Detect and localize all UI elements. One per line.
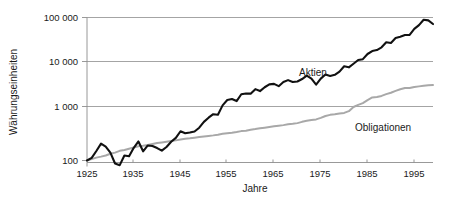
y-tick-label-100000: 100 000 bbox=[44, 12, 78, 23]
y-axis-title: Währungseinheiten bbox=[8, 49, 19, 135]
series-label-obligationen: Obligationen bbox=[355, 122, 411, 133]
x-tick-label-1945: 1945 bbox=[169, 168, 190, 179]
series-label-aktien: Aktien bbox=[299, 67, 327, 78]
chart-container: Währungseinheiten 100 000 10 000 1 000 1… bbox=[0, 0, 452, 197]
x-tick-label-1975: 1975 bbox=[309, 168, 330, 179]
y-tick-label-10000: 10 000 bbox=[49, 56, 78, 67]
x-tick-label-1985: 1985 bbox=[356, 168, 377, 179]
x-tick-label-1955: 1955 bbox=[215, 168, 236, 179]
x-axis-title: Jahre bbox=[242, 183, 267, 194]
x-tick-label-1935: 1935 bbox=[122, 168, 143, 179]
x-tick-label-1925: 1925 bbox=[76, 168, 97, 179]
line-chart: Währungseinheiten 100 000 10 000 1 000 1… bbox=[0, 0, 452, 197]
y-tick-label-1000: 1 000 bbox=[54, 101, 78, 112]
x-tick-label-1965: 1965 bbox=[262, 168, 283, 179]
x-tick-label-1995: 1995 bbox=[403, 168, 424, 179]
y-tick-label-100: 100 bbox=[62, 155, 78, 166]
